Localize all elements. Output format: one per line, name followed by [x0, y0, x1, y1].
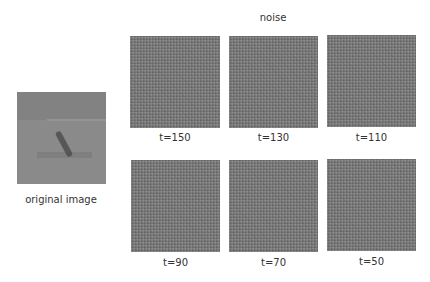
noise-panel-t50: [327, 159, 416, 251]
panel-label-t70: t=70: [229, 257, 318, 268]
noise-panel-t130: [229, 36, 318, 128]
panel-label-t150: t=150: [130, 132, 220, 143]
panel-label-t110: t=110: [327, 132, 416, 143]
noise-panel-t150: [130, 36, 220, 128]
noise-panel-t110: [327, 35, 416, 127]
original-horizon: [47, 119, 106, 121]
original-image-label: original image: [11, 194, 111, 205]
panel-label-t90: t=90: [131, 257, 220, 268]
noise-title: noise: [243, 12, 303, 23]
original-image: [17, 92, 106, 184]
noise-panel-t70: [229, 160, 318, 252]
panel-label-t50: t=50: [327, 256, 416, 267]
original-sky-region: [17, 92, 106, 120]
panel-label-t130: t=130: [229, 132, 318, 143]
noise-panel-t90: [131, 160, 220, 252]
